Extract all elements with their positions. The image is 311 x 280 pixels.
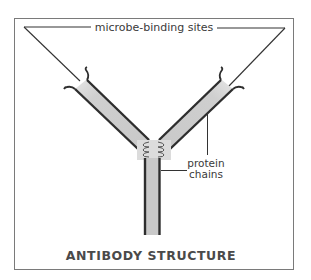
right-arm [158,67,244,150]
left-arm [64,67,150,150]
left-binding-site-icon [86,67,89,80]
right-binding-site-icon [220,67,223,80]
binding-sites-callout [24,27,285,87]
protein-chains-label-line2: chains [189,168,223,180]
stem [145,158,160,235]
binding-sites-label: microbe-binding sites [95,21,214,34]
antibody-diagram: microbe-binding sites protein chains ANT… [0,0,311,280]
hinge-region [137,140,171,160]
diagram-title: ANTIBODY STRUCTURE [66,248,236,263]
